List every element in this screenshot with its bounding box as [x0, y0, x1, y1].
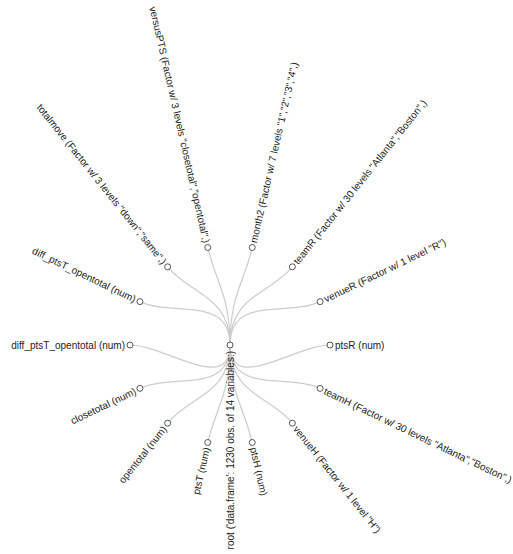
tree-node-opentotal[interactable]: opentotal (num) — [117, 420, 171, 485]
node-label: ptsH (num) — [248, 446, 270, 497]
node-label: totalmove (Factor w/ 3 levels "down","sa… — [35, 102, 169, 266]
node-label: teamR (Factor w/ 30 levels "Atlanta","Bo… — [291, 98, 429, 267]
node-label: month2 (Factor w/ 7 levels "1","2","3","… — [248, 61, 300, 244]
node-circle[interactable] — [249, 245, 255, 251]
tree-node-versusPTS[interactable]: versusPTS (Factor w/ 3 levels "closetota… — [147, 5, 212, 250]
tree-node-root[interactable]: root ('data.frame': 1230 obs. of 14 vari… — [225, 342, 236, 549]
tree-link — [130, 345, 230, 367]
node-circle[interactable] — [137, 385, 143, 391]
node-circle[interactable] — [327, 342, 333, 348]
node-circle[interactable] — [205, 439, 211, 445]
tree-node-teamH[interactable]: teamH (Factor w/ 30 levels "Atlanta","Bo… — [317, 385, 513, 485]
node-circle[interactable] — [289, 264, 295, 270]
tree-link — [208, 248, 230, 345]
node-label: diff_ptsT_opentotal (num) — [30, 245, 137, 304]
node-label: diff_ptsT_opentotal (num) — [11, 340, 125, 351]
node-label: venueH (Factor w/ 1 level "H") — [291, 424, 383, 535]
tree-link — [168, 267, 230, 345]
node-circle[interactable] — [317, 299, 323, 305]
radial-tree-diagram: ptsR (num)teamH (Factor w/ 30 levels "At… — [0, 0, 513, 554]
tree-link — [230, 345, 330, 367]
node-circle[interactable] — [205, 245, 211, 251]
root-label: root ('data.frame': 1230 obs. of 14 vari… — [225, 351, 236, 549]
tree-nodes: ptsR (num)teamH (Factor w/ 30 levels "At… — [11, 5, 513, 549]
tree-node-ptsT[interactable]: ptsT (num) — [191, 439, 212, 495]
node-circle[interactable] — [127, 342, 133, 348]
tree-node-totalmove[interactable]: totalmove (Factor w/ 3 levels "down","sa… — [35, 102, 171, 270]
node-circle[interactable] — [165, 264, 171, 270]
tree-node-diff_ptsT_opentotal_2[interactable]: diff_ptsT_opentotal (num) — [11, 340, 133, 351]
node-circle[interactable] — [289, 420, 295, 426]
tree-node-ptsH[interactable]: ptsH (num) — [248, 439, 270, 496]
tree-node-teamR[interactable]: teamR (Factor w/ 30 levels "Atlanta","Bo… — [289, 98, 429, 270]
tree-link — [230, 345, 292, 423]
node-circle[interactable] — [137, 299, 143, 305]
node-label: teamH (Factor w/ 30 levels "Atlanta","Bo… — [322, 386, 513, 486]
node-label: ptsR (num) — [335, 340, 384, 351]
node-label: venueR (Factor w/ 1 level "R") — [322, 236, 447, 304]
tree-link — [140, 302, 230, 345]
node-label: closetotal (num) — [69, 386, 138, 427]
tree-link — [230, 248, 252, 345]
node-label: opentotal (num) — [117, 424, 169, 486]
node-circle[interactable] — [249, 439, 255, 445]
tree-node-diff_ptsT_opentotal_1[interactable]: diff_ptsT_opentotal (num) — [30, 245, 142, 304]
tree-link — [230, 302, 320, 345]
tree-node-month2[interactable]: month2 (Factor w/ 7 levels "1","2","3","… — [248, 61, 300, 251]
tree-node-venueH[interactable]: venueH (Factor w/ 1 level "H") — [289, 420, 383, 535]
node-circle[interactable] — [227, 342, 233, 348]
node-circle[interactable] — [317, 385, 323, 391]
tree-node-venueR[interactable]: venueR (Factor w/ 1 level "R") — [317, 236, 447, 304]
tree-link — [168, 345, 230, 423]
node-label: versusPTS (Factor w/ 3 levels "closetota… — [147, 5, 212, 243]
tree-link — [230, 267, 292, 345]
node-label: ptsT (num) — [191, 446, 212, 495]
tree-node-closetotal[interactable]: closetotal (num) — [69, 385, 143, 426]
node-circle[interactable] — [165, 420, 171, 426]
tree-node-ptsR[interactable]: ptsR (num) — [327, 340, 384, 351]
